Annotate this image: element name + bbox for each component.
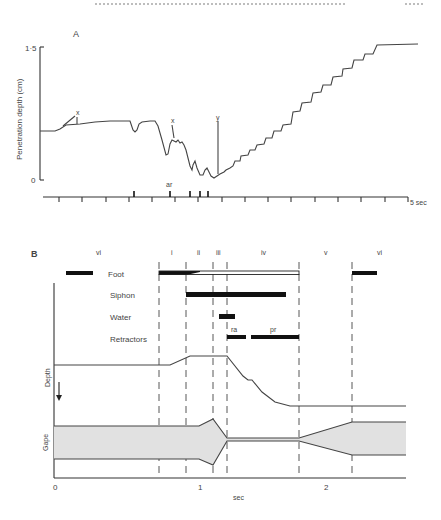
annotation-x-1: x — [76, 109, 80, 116]
phase-label-iii: iii — [216, 249, 221, 256]
retractor-bar-pr — [251, 335, 299, 339]
panel-b-x-label: sec — [233, 494, 244, 501]
phase-label-vi-end: vi — [377, 249, 383, 256]
panel-b: B vi i ii iii iv v vi Foot Siphon Water … — [31, 249, 406, 501]
foot-bar-vi-end — [352, 271, 377, 275]
ytick-label-bottom: 0 — [31, 176, 36, 185]
annotation-x-2: x — [171, 117, 175, 124]
time-ticks — [59, 197, 408, 202]
phase-label-iv: iv — [261, 249, 267, 256]
figure: A 1·5 0 Penetration depth (cm) x x y — [0, 0, 441, 520]
retractor-bar-ra — [227, 335, 246, 339]
foot-bar-vi-start — [66, 271, 93, 275]
retractor-label-pr: pr — [270, 326, 277, 334]
phase-label-ii: ii — [197, 249, 201, 256]
xtick-2: 2 — [324, 483, 329, 492]
ytick-label-top: 1·5 — [25, 44, 37, 53]
panel-a-y-label: Penetration depth (cm) — [15, 78, 24, 160]
x-marker-2 — [172, 125, 174, 138]
panel-a: A 1·5 0 Penetration depth (cm) x x y — [15, 29, 427, 206]
water-bar — [219, 314, 235, 319]
row-label-siphon: Siphon — [110, 291, 135, 300]
annotation-ar: ar — [166, 181, 173, 188]
xtick-1: 1 — [198, 483, 203, 492]
annotation-y: y — [216, 114, 220, 122]
panel-a-label: A — [73, 29, 79, 39]
row-label-water: Water — [110, 313, 131, 322]
phase-label-i: i — [171, 249, 173, 256]
depth-trace — [54, 356, 406, 406]
penetration-depth-trace — [40, 44, 418, 178]
depth-y-label: Depth — [44, 368, 52, 387]
siphon-bar — [186, 292, 286, 297]
event-marks — [134, 191, 208, 197]
panel-b-label: B — [31, 249, 38, 259]
row-label-retractors: Retractors — [110, 335, 147, 344]
row-label-foot: Foot — [108, 270, 125, 279]
time-axis-end-label: 5 sec — [410, 199, 427, 206]
gape-y-label: Gape — [42, 434, 50, 451]
depth-arrow-down-icon — [56, 395, 62, 401]
xtick-0: 0 — [53, 483, 58, 492]
phase-label-v: v — [324, 249, 328, 256]
retractor-label-ra: ra — [231, 326, 237, 333]
phase-label-vi-start: vi — [96, 249, 102, 256]
